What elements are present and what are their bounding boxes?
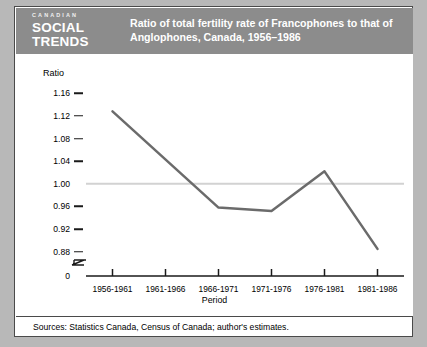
logo-eyebrow-text: CANADIAN — [32, 13, 120, 19]
figure-card: CANADIAN SOCIAL TRENDS Ratio of total fe… — [14, 6, 413, 337]
x-axis-tick-label: 1956-1961 — [92, 284, 132, 294]
page-background: CANADIAN SOCIAL TRENDS Ratio of total fe… — [0, 0, 427, 347]
footer-divider — [16, 316, 413, 317]
x-axis-title: Period — [16, 295, 413, 305]
x-axis-tick-label: 1966-1971 — [198, 284, 238, 294]
figure-title-line-1: Ratio of total fertility rate of Francop… — [130, 17, 405, 31]
x-axis-tick-label: 1981-1986 — [357, 284, 397, 294]
figure-header-banner: CANADIAN SOCIAL TRENDS Ratio of total fe… — [16, 8, 413, 54]
x-axis-tick-label: 1971-1976 — [251, 284, 291, 294]
data-series-line — [113, 111, 378, 248]
figure-title-line-2: Anglophones, Canada, 1956–1986 — [130, 31, 405, 45]
line-chart-plot — [16, 54, 413, 317]
x-axis-tick-marks — [113, 269, 378, 276]
axis-lines — [86, 82, 404, 276]
logo-line-trends: TRENDS — [32, 35, 120, 49]
canadian-social-trends-logo: CANADIAN SOCIAL TRENDS — [16, 13, 120, 49]
sources-note: Sources: Statistics Canada, Census of Ca… — [33, 322, 289, 332]
x-axis-tick-label: 1961-1966 — [145, 284, 185, 294]
x-axis-tick-label: 1976-1981 — [304, 284, 344, 294]
chart-area: Ratio 1.161.121.081.041.000.960.920.88 0… — [16, 54, 413, 317]
figure-title: Ratio of total fertility rate of Francop… — [120, 17, 413, 45]
logo-line-social: SOCIAL — [32, 21, 120, 35]
